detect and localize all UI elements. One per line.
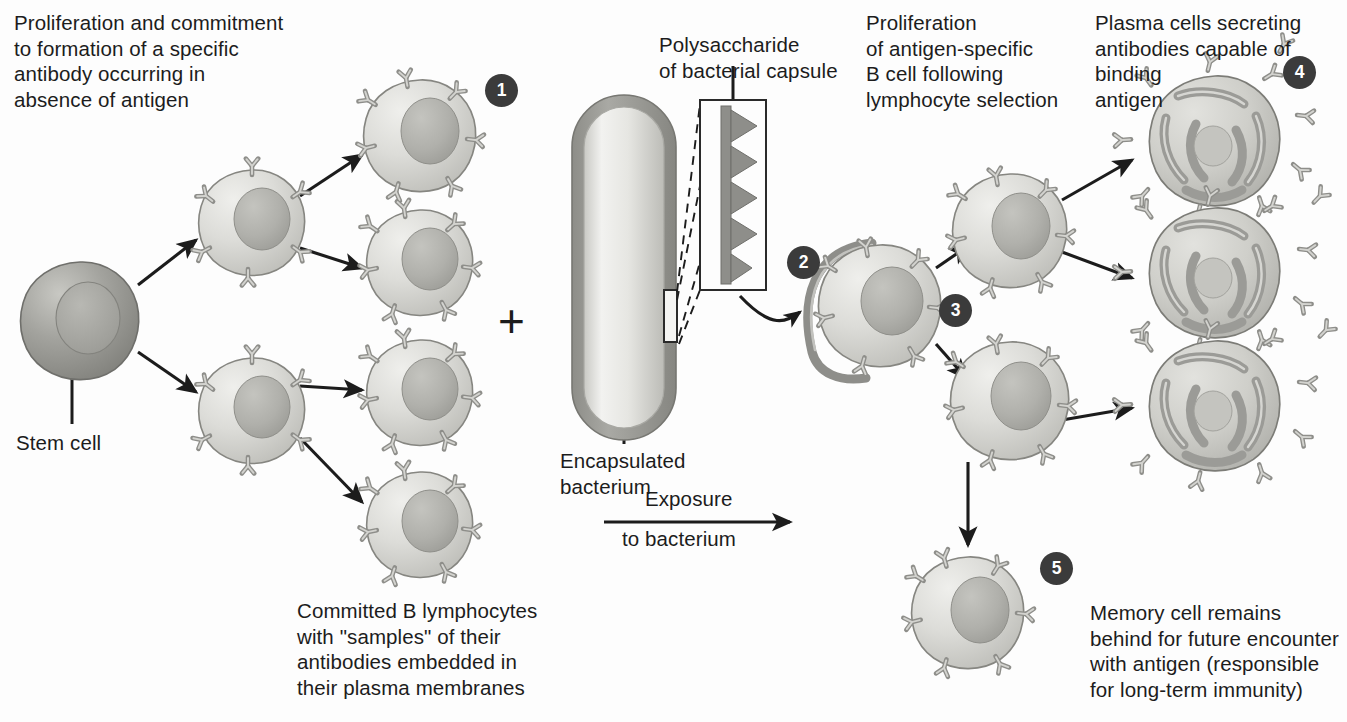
plus-symbol: + — [498, 298, 525, 344]
badge-4: 4 — [1283, 56, 1316, 89]
exposure-label-top: Exposure — [645, 486, 732, 512]
badge-3: 3 — [939, 294, 972, 327]
badge-2: 2 — [787, 246, 820, 279]
polysaccharide-inset — [700, 100, 766, 290]
committed-b-caption: Committed B lymphocytes with "samples" o… — [297, 598, 537, 700]
capsule-sample-window — [664, 290, 677, 342]
plasma-cells-caption: Plasma cells secreting antibodies capabl… — [1095, 10, 1301, 112]
proliferation-caption: Proliferation of antigen-specific B cell… — [866, 10, 1058, 112]
diagram-canvas: Proliferation and commitment to formatio… — [0, 0, 1347, 722]
encapsulated-bacterium — [572, 95, 677, 440]
intro-caption: Proliferation and commitment to formatio… — [14, 10, 283, 112]
memory-cell-caption: Memory cell remains behind for future en… — [1090, 600, 1339, 702]
exposure-label-bottom: to bacterium — [622, 526, 736, 552]
polysaccharide-label: Polysaccharide of bacterial capsule — [659, 32, 838, 83]
stem-cell-label: Stem cell — [16, 430, 101, 456]
badge-1: 1 — [485, 74, 518, 107]
badge-5: 5 — [1040, 552, 1073, 585]
stem-cell — [21, 262, 139, 380]
